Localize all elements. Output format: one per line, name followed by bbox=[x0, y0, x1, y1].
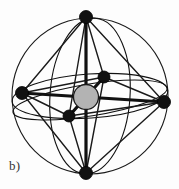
left-vertex-atom bbox=[16, 87, 29, 100]
front-vertex-atom bbox=[63, 110, 75, 122]
edge-top-right bbox=[86, 17, 164, 102]
panel-label: b) bbox=[9, 159, 20, 172]
central-atom bbox=[74, 85, 99, 110]
right-vertex-atom bbox=[158, 96, 171, 109]
bottom-vertex-atom bbox=[80, 167, 93, 180]
figure-panel: b) bbox=[0, 0, 179, 189]
edge-bottom-front bbox=[69, 116, 86, 173]
octahedron-diagram bbox=[0, 0, 179, 189]
top-vertex-atom bbox=[80, 11, 93, 24]
edge-top-left bbox=[22, 17, 86, 93]
back-vertex-atom bbox=[98, 71, 110, 83]
